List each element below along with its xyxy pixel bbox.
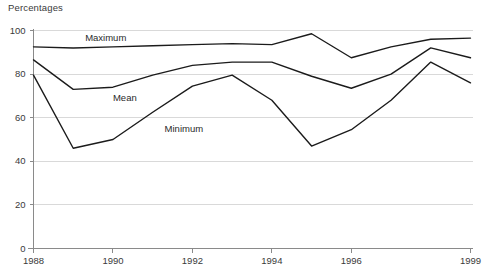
gridlines-group: [34, 31, 473, 205]
series-group: [34, 34, 471, 148]
plot-area: [0, 0, 493, 269]
y-axis-group: [30, 29, 34, 249]
series-label-mean: Mean: [113, 92, 137, 103]
series-line-mean: [34, 48, 471, 89]
y-tick-label-40: 40: [0, 155, 26, 166]
series-label-minimum: Minimum: [165, 123, 204, 134]
series-label-maximum: Maximum: [85, 32, 126, 43]
x-tick-label-1992: 1992: [172, 255, 212, 266]
x-tick-label-1990: 1990: [93, 255, 133, 266]
series-line-minimum: [34, 62, 471, 148]
x-tick-label-1988: 1988: [14, 255, 54, 266]
y-tick-label-60: 60: [0, 112, 26, 123]
y-tick-label-20: 20: [0, 199, 26, 210]
y-tick-label-0: 0: [0, 243, 26, 254]
y-tick-label-80: 80: [0, 68, 26, 79]
x-tick-label-1994: 1994: [252, 255, 292, 266]
line-chart: Percentages 020406080100 198819901992199…: [0, 0, 493, 269]
x-tick-label-1999: 1999: [451, 255, 491, 266]
y-tick-label-100: 100: [0, 25, 26, 36]
x-axis-group: [28, 249, 473, 253]
x-tick-label-1996: 1996: [331, 255, 371, 266]
